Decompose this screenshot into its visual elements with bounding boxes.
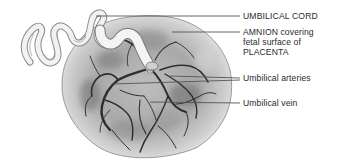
label-umbilical-cord: UMBILICAL CORD: [243, 11, 318, 21]
label-umbilical-vein: Umbilical vein: [243, 98, 297, 108]
label-amnion: AMNION covering fetal surface of PLACENT…: [243, 27, 314, 57]
label-amnion-line-1: AMNION covering: [243, 27, 314, 37]
label-amnion-line-2: fetal surface of: [243, 37, 314, 47]
label-umbilical-arteries: Umbilical arteries: [243, 73, 311, 83]
label-amnion-line-3: PLACENTA: [243, 47, 314, 57]
placenta-diagram: UMBILICAL CORD AMNION covering fetal sur…: [0, 0, 342, 163]
